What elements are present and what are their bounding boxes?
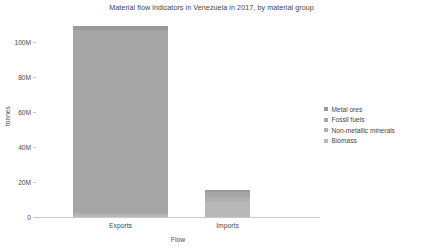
x-axis-title: Flow bbox=[0, 236, 356, 243]
bar-segment[interactable] bbox=[73, 30, 168, 213]
legend-label: Metal ores bbox=[332, 106, 363, 113]
legend-swatch-icon bbox=[324, 107, 328, 111]
legend-item[interactable]: Fossil fuels bbox=[324, 115, 395, 126]
bar-imports[interactable] bbox=[205, 190, 250, 217]
legend-label: Non-metallic minerals bbox=[332, 127, 395, 134]
chart-container: Material flow indicators in Venezuela in… bbox=[0, 0, 423, 252]
bar-segment[interactable] bbox=[205, 202, 250, 217]
legend-swatch-icon bbox=[324, 139, 328, 143]
legend-label: Fossil fuels bbox=[332, 116, 365, 123]
legend-item[interactable]: Metal ores bbox=[324, 104, 395, 115]
bar-segment[interactable] bbox=[73, 215, 168, 217]
chart-legend: Metal oresFossil fuelsNon-metallic miner… bbox=[324, 104, 395, 146]
legend-swatch-icon bbox=[324, 128, 328, 132]
x-tick-label: Imports bbox=[216, 222, 239, 229]
x-axis-line bbox=[36, 217, 320, 218]
legend-item[interactable]: Biomass bbox=[324, 136, 395, 147]
legend-swatch-icon bbox=[324, 118, 328, 122]
x-tick-label: Exports bbox=[109, 222, 132, 229]
legend-item[interactable]: Non-metallic minerals bbox=[324, 125, 395, 136]
bar-exports[interactable] bbox=[73, 26, 168, 217]
legend-label: Biomass bbox=[332, 137, 357, 144]
